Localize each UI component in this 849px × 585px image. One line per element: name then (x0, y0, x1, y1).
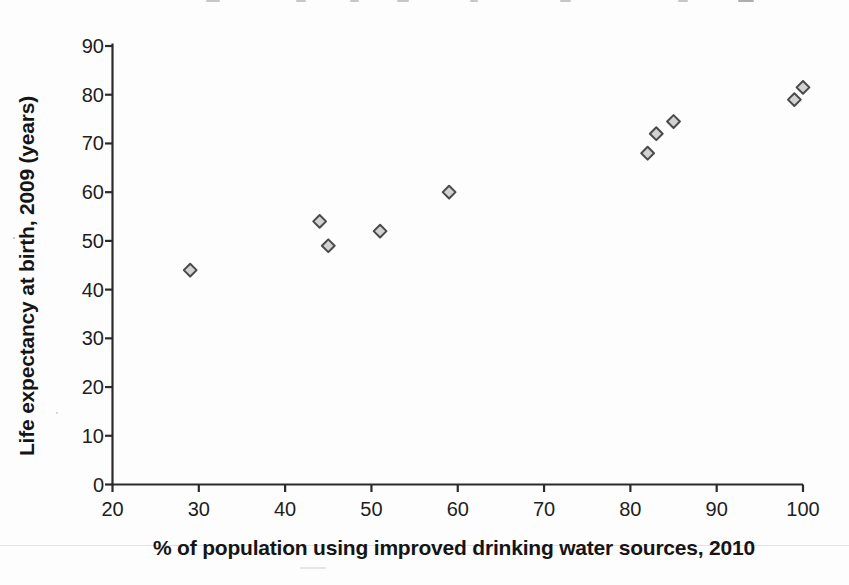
x-tick-label: 70 (533, 498, 555, 520)
data-point-marker (322, 239, 335, 252)
y-tick-label: 70 (82, 132, 104, 154)
y-tick-label: 80 (82, 84, 104, 106)
y-tick-label: 90 (82, 35, 104, 57)
data-point-marker (788, 93, 801, 106)
x-tick-label: 60 (447, 498, 469, 520)
data-point-marker (797, 81, 810, 94)
scatter-plot: 20304050607080901000102030405060708090 (0, 0, 849, 585)
data-point-marker (374, 225, 387, 238)
y-tick-label: 30 (82, 327, 104, 349)
data-point-marker (667, 115, 680, 128)
x-tick-label: 20 (101, 498, 123, 520)
y-tick-label: 0 (93, 474, 104, 496)
y-tick-label: 10 (82, 425, 104, 447)
data-point-marker (313, 215, 326, 228)
y-tick-label: 40 (82, 279, 104, 301)
data-point-marker (650, 127, 663, 140)
data-point-marker (641, 147, 654, 160)
y-tick-label: 50 (82, 230, 104, 252)
data-point-marker (184, 264, 197, 277)
y-tick-label: 20 (82, 376, 104, 398)
y-tick-label: 60 (82, 181, 104, 203)
scanned-figure-page: 20304050607080901000102030405060708090 %… (0, 0, 849, 585)
y-axis-title: Life expectancy at birth, 2009 (years) (15, 96, 39, 456)
x-tick-label: 80 (619, 498, 641, 520)
x-tick-label: 50 (360, 498, 382, 520)
x-tick-label: 40 (274, 498, 296, 520)
x-tick-label: 90 (706, 498, 728, 520)
x-tick-label: 100 (786, 498, 819, 520)
data-point-marker (443, 186, 456, 199)
x-tick-label: 30 (188, 498, 210, 520)
x-axis-title: % of population using improved drinking … (153, 536, 755, 560)
